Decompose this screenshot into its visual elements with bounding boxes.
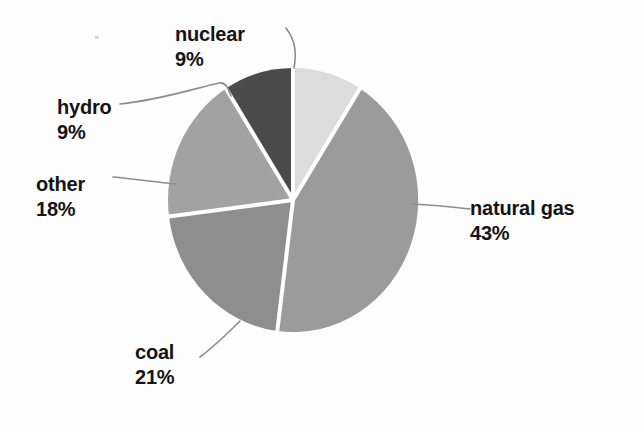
pie-label-hydro-value: 9% (57, 120, 112, 145)
scan-artifact (95, 36, 99, 39)
pie-label-hydro: hydro 9% (57, 95, 112, 145)
pie-label-other-name: other (36, 172, 85, 197)
pie-label-other-value: 18% (36, 197, 85, 222)
leader-line-other (113, 177, 176, 184)
pie-label-hydro-name: hydro (57, 95, 112, 120)
pie-label-other: other 18% (36, 172, 85, 222)
pie-label-coal-name: coal (135, 340, 174, 365)
pie-label-natural-gas: natural gas 43% (470, 196, 575, 246)
pie-label-natural-gas-value: 43% (470, 221, 575, 246)
pie-label-nuclear-name: nuclear (175, 22, 245, 47)
pie-slice-coal[interactable] (169, 200, 293, 331)
pie-label-nuclear-value: 9% (175, 47, 245, 72)
pie-label-coal-value: 21% (135, 365, 174, 390)
pie-label-natural-gas-name: natural gas (470, 196, 575, 221)
leader-line-natural-gas (412, 204, 470, 209)
leader-line-coal (200, 321, 240, 357)
leader-line-nuclear (286, 28, 295, 68)
pie-label-nuclear: nuclear 9% (175, 22, 245, 72)
pie-label-coal: coal 21% (135, 340, 174, 390)
pie-chart-figure: nuclear 9% hydro 9% other 18% natural ga… (0, 0, 641, 430)
